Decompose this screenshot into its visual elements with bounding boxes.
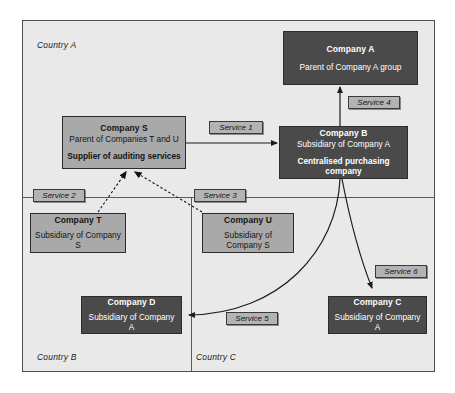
entity-title: Company C	[353, 297, 401, 308]
service-tag-2[interactable]: Service 2	[33, 189, 85, 202]
entity-title: Company T	[54, 215, 101, 226]
entity-company-b[interactable]: Company B Subsidiary of Company A Centra…	[279, 126, 408, 179]
country-label-c: Country C	[196, 352, 236, 362]
service-tag-4[interactable]: Service 4	[348, 96, 400, 109]
service-tag-5[interactable]: Service 5	[226, 312, 278, 325]
entity-company-u[interactable]: Company U Subsidiary of Company S	[202, 213, 294, 253]
country-label-a: Country A	[37, 40, 76, 50]
entity-relation: Subsidiary of Company A	[332, 312, 423, 333]
entity-relation: Subsidiary of Company A	[297, 139, 390, 150]
entity-role: Supplier of auditing services	[67, 151, 180, 162]
service-tag-3[interactable]: Service 3	[194, 189, 246, 202]
entity-title: Company D	[107, 297, 155, 308]
entity-title: Company S	[100, 123, 148, 134]
service-tag-6[interactable]: Service 6	[375, 265, 427, 278]
entity-company-s[interactable]: Company S Parent of Companies T and U Su…	[62, 116, 186, 169]
entity-relation: Subsidiary of Company S	[34, 230, 122, 251]
country-label-b: Country B	[37, 352, 77, 362]
diagram-canvas: Country A Country B Country C Company A …	[0, 0, 455, 393]
service-tag-1[interactable]: Service 1	[209, 121, 263, 134]
entity-company-c[interactable]: Company C Subsidiary of Company A	[328, 296, 427, 334]
entity-company-a[interactable]: Company A Parent of Company A group	[283, 31, 418, 85]
entity-company-t[interactable]: Company T Subsidiary of Company S	[30, 213, 126, 253]
entity-role: Centralised purchasing company	[283, 156, 404, 177]
entity-company-d[interactable]: Company D Subsidiary of Company A	[81, 296, 182, 334]
entity-relation: Subsidiary of Company A	[85, 312, 178, 333]
entity-relation: Parent of Company A group	[300, 62, 402, 73]
entity-relation: Parent of Companies T and U	[69, 134, 178, 145]
entity-relation: Subsidiary of Company S	[206, 230, 290, 251]
country-divider-vertical	[191, 197, 192, 371]
entity-title: Company B	[319, 128, 367, 139]
entity-title: Company A	[327, 44, 375, 55]
entity-title: Company U	[224, 215, 272, 226]
